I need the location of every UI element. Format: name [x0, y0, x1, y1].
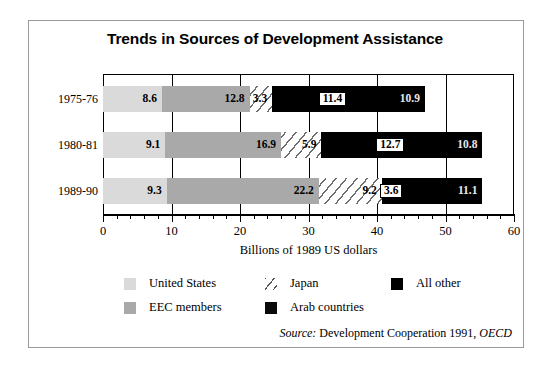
- bar-row: 9.322.29.23.611.1: [103, 178, 482, 204]
- bar-segment-value: 22.2: [294, 185, 319, 197]
- x-tick-minor: [213, 214, 214, 219]
- x-tick-minor: [432, 214, 433, 219]
- bar-segment: 5.9: [281, 132, 321, 158]
- x-tick-label: 10: [152, 224, 192, 239]
- bar-segment: 9.2: [319, 178, 382, 204]
- bar-segment: 12.8: [162, 86, 250, 112]
- bar-row: 9.116.95.912.710.8: [103, 132, 482, 158]
- legend-swatch-eec-icon: [124, 302, 136, 314]
- x-tick-label: 40: [357, 224, 397, 239]
- x-tick-minor: [500, 214, 501, 219]
- bar-segment-value: 10.8: [457, 139, 482, 151]
- x-tick-minor: [336, 214, 337, 219]
- x-tick-minor: [130, 214, 131, 219]
- x-tick-minor: [404, 214, 405, 219]
- x-tick-major: [172, 214, 173, 222]
- x-tick-minor: [459, 214, 460, 219]
- bar-segment: 11.4: [272, 86, 350, 112]
- x-tick-minor: [350, 214, 351, 219]
- bar-segment-value: 12.8: [224, 93, 249, 105]
- bar-segment-value: 3.6: [380, 184, 402, 199]
- x-tick-minor: [418, 214, 419, 219]
- bar-segment: 3.3: [250, 86, 273, 112]
- legend-item-us: United States: [124, 276, 216, 291]
- bar-segment-value: 12.7: [376, 138, 404, 153]
- x-tick-minor: [267, 214, 268, 219]
- bar-segment-value: 9.2: [362, 185, 381, 197]
- bar-segment: 16.9: [165, 132, 281, 158]
- x-tick-label: 0: [83, 224, 123, 239]
- legend-item-japan: Japan: [265, 276, 318, 291]
- legend-label: Japan: [290, 276, 318, 291]
- category-label-2: 1980-81: [0, 132, 98, 158]
- bar-segment-value: 10.9: [400, 93, 425, 105]
- legend-label: Arab countries: [290, 300, 364, 315]
- bar-segment-value: 9.3: [147, 185, 166, 197]
- legend: United StatesEEC membersJapanArab countr…: [124, 276, 469, 320]
- x-tick-minor: [473, 214, 474, 219]
- x-tick-minor: [487, 214, 488, 219]
- category-label-1: 1975-76: [0, 86, 98, 112]
- x-axis-title: Billions of 1989 US dollars: [103, 243, 514, 258]
- x-tick-minor: [199, 214, 200, 219]
- legend-label: United States: [149, 276, 216, 291]
- x-tick-major: [309, 214, 310, 222]
- x-tick-major: [377, 214, 378, 222]
- bar-segment-value: 11.1: [458, 185, 483, 197]
- bar-segment: 12.7: [321, 132, 408, 158]
- bar-segment-value: 16.9: [256, 139, 281, 151]
- x-tick-minor: [391, 214, 392, 219]
- bar-segment-value: 5.9: [302, 139, 321, 151]
- legend-swatch-us-icon: [124, 278, 136, 290]
- source-org: OECD: [479, 326, 512, 340]
- x-tick-label: 20: [220, 224, 260, 239]
- x-tick-major: [240, 214, 241, 222]
- legend-label: All other: [416, 276, 461, 291]
- category-label-text: 1975-76: [2, 86, 98, 112]
- legend-swatch-other-icon: [391, 278, 403, 290]
- category-label-text: 1980-81: [2, 132, 98, 158]
- x-tick-minor: [322, 214, 323, 219]
- legend-swatch-japan-icon: [265, 278, 277, 290]
- bar-segment: 9.3: [103, 178, 167, 204]
- bar-row: 8.612.83.311.410.9: [103, 86, 425, 112]
- x-tick-minor: [363, 214, 364, 219]
- legend-swatch-arab-icon: [265, 302, 277, 314]
- legend-label: EEC members: [149, 300, 222, 315]
- bar-segment: 3.6: [382, 178, 407, 204]
- x-tick-major: [514, 214, 515, 222]
- x-tick-minor: [254, 214, 255, 219]
- category-label-3: 1989-90: [0, 178, 98, 204]
- x-tick-label: 60: [494, 224, 534, 239]
- source-text: Development Cooperation 1991,: [319, 326, 476, 340]
- x-tick-label: 50: [426, 224, 466, 239]
- bar-segment: 8.6: [103, 86, 162, 112]
- chart-title: Trends in Sources of Development Assista…: [0, 30, 550, 48]
- category-label-text: 1989-90: [2, 178, 98, 204]
- bar-segment-value: 8.6: [143, 93, 162, 105]
- bar-segment: 10.8: [408, 132, 482, 158]
- x-tick-minor: [117, 214, 118, 219]
- legend-item-other: All other: [391, 276, 461, 291]
- x-tick-minor: [158, 214, 159, 219]
- x-tick-major: [103, 214, 104, 222]
- legend-item-eec: EEC members: [124, 300, 222, 315]
- bar-segment: 22.2: [167, 178, 319, 204]
- x-tick-label: 30: [289, 224, 329, 239]
- x-tick-minor: [185, 214, 186, 219]
- source-prefix: Source:: [279, 326, 316, 340]
- x-tick-minor: [226, 214, 227, 219]
- x-tick-minor: [144, 214, 145, 219]
- bar-segment-value: 11.4: [319, 92, 347, 107]
- bar-segment: 10.9: [350, 86, 425, 112]
- source-note: Source: Development Cooperation 1991, OE…: [0, 326, 512, 341]
- legend-item-arab: Arab countries: [265, 300, 364, 315]
- x-tick-minor: [295, 214, 296, 219]
- x-tick-major: [446, 214, 447, 222]
- bar-segment: 9.1: [103, 132, 165, 158]
- bar-segment-value: 9.1: [146, 139, 165, 151]
- bar-segment: 11.1: [406, 178, 482, 204]
- bar-segment-value: 3.3: [253, 93, 272, 105]
- x-tick-minor: [281, 214, 282, 219]
